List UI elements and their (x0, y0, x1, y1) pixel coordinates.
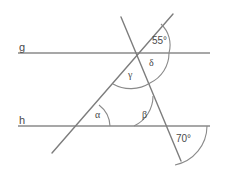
label-line-g: g (19, 42, 25, 53)
label-angle-70: 70° (176, 134, 191, 144)
label-angle-gamma: γ (128, 70, 132, 80)
label-angle-delta: δ (149, 58, 154, 68)
angle-arc-alpha (99, 105, 110, 126)
angle-arc-gamma (113, 83, 150, 89)
label-line-h: h (19, 115, 25, 126)
label-angle-alpha: α (95, 110, 100, 120)
geometry-canvas (0, 0, 225, 177)
geometry-figure: g h 55° δ γ α β 70° (0, 0, 225, 177)
label-angle-55: 55° (152, 36, 167, 46)
label-angle-beta: β (142, 110, 147, 120)
